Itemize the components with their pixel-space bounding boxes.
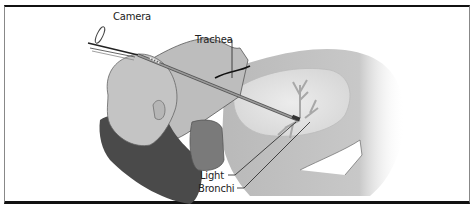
- label-bronchi: Bronchi: [198, 183, 234, 194]
- bronchoscopy-illustration: [0, 0, 475, 212]
- label-camera: Camera: [113, 11, 151, 22]
- label-trachea: Trachea: [195, 34, 233, 45]
- shoulder-pad: [190, 120, 224, 171]
- label-light: Light: [200, 170, 224, 181]
- ear: [153, 100, 165, 119]
